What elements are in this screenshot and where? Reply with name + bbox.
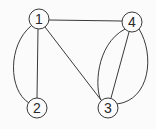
graph-diagram: 1 2 3 4: [0, 0, 156, 129]
node-label: 1: [35, 11, 43, 27]
edge-4-3-curved-left: [98, 29, 125, 100]
node-2: 2: [27, 98, 47, 118]
edge-1-2-straight: [37, 29, 38, 98]
node-1: 1: [29, 9, 49, 29]
node-label: 3: [104, 100, 112, 116]
edge-1-3: [45, 27, 101, 100]
edge-4-3-straight: [111, 32, 129, 98]
edges: [13, 20, 147, 104]
node-3: 3: [98, 98, 118, 118]
node-label: 4: [128, 14, 136, 30]
edge-1-2-curved: [13, 26, 31, 103]
node-label: 2: [33, 100, 41, 116]
edge-4-3-curved-right: [117, 29, 148, 104]
node-4: 4: [122, 12, 142, 32]
edge-1-4: [49, 20, 122, 21]
